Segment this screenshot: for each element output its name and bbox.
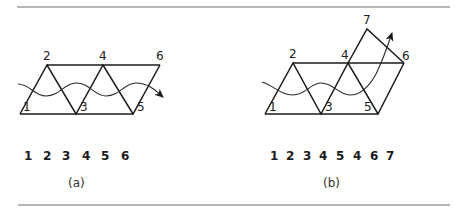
figure-canvas: 1 2 3 4 5 6 1 2 3 4 5 6 (a) 1 2 3 4 5 6 … [0,0,455,208]
panel-a-caption: (a) [68,176,85,190]
panel-a-traversal-arrow [18,83,163,97]
vertex-label: 1 [23,100,31,114]
vertex-label: 5 [364,100,372,114]
sequence-item: 6 [121,149,129,163]
vertex-label: 6 [402,49,410,63]
vertex-label: 5 [137,100,145,114]
panel-a-sequence: 1 2 3 4 5 6 [24,149,129,163]
sequence-item: 2 [286,149,294,163]
sequence-item: 2 [43,149,51,163]
sequence-item: 5 [101,149,109,163]
sequence-item: 4 [353,149,361,163]
vertex-label: 1 [269,100,277,114]
sequence-item: 3 [62,149,70,163]
sequence-item: 1 [24,149,32,163]
panel-b-sequence: 1 2 3 4 5 4 6 7 [270,149,394,163]
sequence-item: 7 [386,149,394,163]
panel-b-traversal-arrow [262,33,392,95]
vertex-label: 2 [43,49,51,63]
sequence-item: 4 [319,149,327,163]
sequence-item: 1 [270,149,278,163]
vertex-label: 3 [325,100,333,114]
sequence-item: 6 [370,149,378,163]
vertex-label: 7 [363,13,371,27]
vertex-label: 2 [289,47,297,61]
panel-b-triangle-strip [265,29,404,114]
sequence-item: 3 [303,149,311,163]
sequence-item: 5 [336,149,344,163]
panel-b-caption: (b) [323,176,340,190]
vertex-label: 3 [80,100,88,114]
vertex-label: 6 [156,49,164,63]
sequence-item: 4 [82,149,90,163]
vertex-label: 4 [99,49,107,63]
vertex-label: 4 [341,48,349,62]
